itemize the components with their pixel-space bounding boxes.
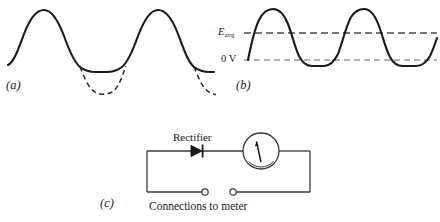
panel-label-b: (b) [236,78,251,93]
panel-b-solid-trace [248,9,437,66]
panel-b-waveform [244,9,437,66]
panel-label-a: (a) [6,78,21,93]
connections-to-meter-label: Connections to meter [149,200,247,212]
panel-a-waveform [8,10,216,95]
panel-c-circuit [147,133,310,195]
analog-meter-icon [243,133,279,169]
zero-volt-label: 0 V [221,53,236,64]
meter-body [243,133,279,169]
terminal-icon-left[interactable] [202,189,208,195]
diode-triangle [191,146,202,157]
figure-container: (a) (b) (c) Eavg 0 V Rectifier Connectio… [0,0,440,222]
diode-icon [191,145,203,158]
eavg-label: Eavg [218,26,235,39]
terminal-icon-right[interactable] [230,189,236,195]
rectifier-label: Rectifier [173,131,211,143]
panel-label-c: (c) [100,196,114,211]
panel-a-solid-trace [8,10,214,72]
eavg-label-subscript: avg [224,31,234,39]
